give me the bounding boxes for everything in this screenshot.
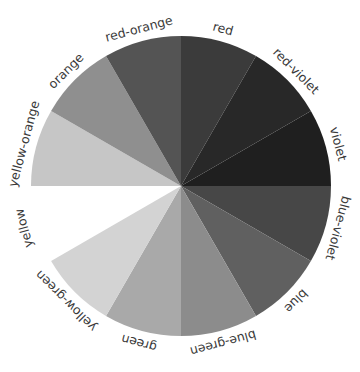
label-violet: violet: [327, 125, 350, 162]
label-green: green: [119, 332, 158, 356]
wheel-slices: [31, 36, 331, 336]
color-wheel: violetblue-violetblueblue-greengreenyell…: [0, 0, 360, 372]
label-red: red: [211, 19, 235, 39]
label-yellow: yellow: [11, 207, 36, 249]
